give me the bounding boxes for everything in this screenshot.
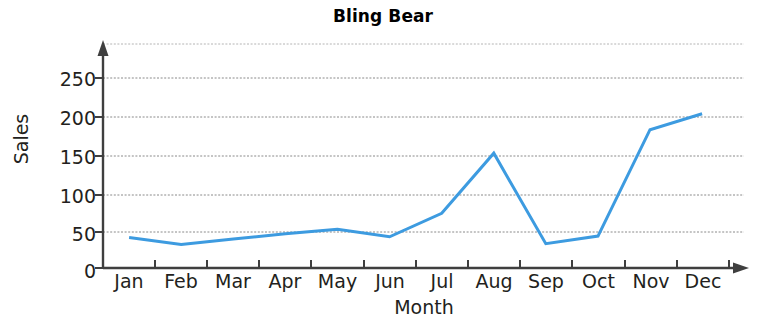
x-tick-label-dec: Dec	[677, 272, 729, 291]
x-tick-label-feb: Feb	[155, 272, 207, 291]
line-chart: Bling Bear Sales 250 200 150 100 50 0	[0, 0, 766, 328]
x-axis-title: Month	[103, 296, 745, 318]
x-tick-label-jun: Jun	[364, 272, 416, 291]
x-tick-label-jan: Jan	[103, 272, 155, 291]
x-tick-label-jul: Jul	[416, 272, 468, 291]
gridlines	[103, 44, 744, 232]
x-tick-label-mar: Mar	[207, 272, 259, 291]
y-axis	[95, 40, 109, 268]
x-tick-label-may: May	[311, 272, 364, 291]
x-tick-label-nov: Nov	[625, 272, 677, 291]
x-tick-label-oct: Oct	[572, 272, 625, 291]
x-tick-label-aug: Aug	[468, 272, 520, 291]
x-tick-label-apr: Apr	[259, 272, 311, 291]
x-tick-label-sep: Sep	[520, 272, 572, 291]
data-series-line	[129, 114, 702, 245]
